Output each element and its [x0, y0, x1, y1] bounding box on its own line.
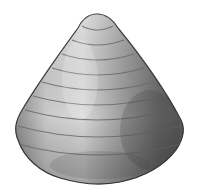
- shell-illustration: [0, 0, 200, 193]
- shell-image: [0, 0, 200, 193]
